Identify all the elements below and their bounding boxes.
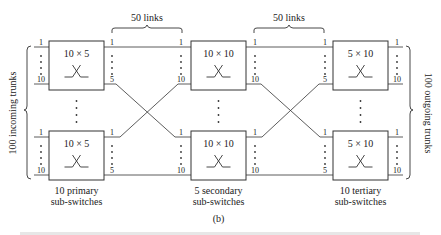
switch-size-label: 5 × 10 (348, 48, 374, 59)
svg-text:10: 10 (177, 75, 185, 84)
secondary-switch-bottom: 10 × 10 (191, 131, 246, 180)
subfigure-label: (b) (213, 213, 225, 225)
svg-text:1: 1 (323, 38, 327, 47)
tertiary-switch-bottom: 5 × 10 (333, 131, 388, 180)
svg-text:1: 1 (179, 38, 183, 47)
svg-text:10: 10 (37, 75, 45, 84)
svg-text:5: 5 (323, 166, 327, 175)
incoming-trunks-bracket (24, 46, 31, 179)
links-bracket-left (112, 25, 182, 33)
switch-size-label: 10 × 10 (203, 48, 234, 59)
svg-text:10: 10 (37, 166, 45, 175)
svg-text:1: 1 (39, 128, 43, 137)
secondary-caption-line2: sub-switches (193, 196, 245, 207)
links-label-left: 50 links (131, 12, 163, 23)
svg-text:1: 1 (323, 128, 327, 137)
outgoing-trunks-label: 100 outgoing trunks (423, 73, 434, 154)
svg-text:1: 1 (39, 38, 43, 47)
primary-caption-line2: sub-switches (51, 196, 103, 207)
tertiary-caption-line2: sub-switches (335, 196, 387, 207)
svg-text:5: 5 (110, 75, 114, 84)
svg-text:10: 10 (251, 75, 259, 84)
cutoff-caption-fragment (20, 232, 420, 235)
tertiary-caption-line1: 10 tertiary (340, 185, 381, 196)
three-stage-switch-diagram: 100 incoming trunks 100 outgoing trunks … (0, 0, 441, 235)
svg-text:10: 10 (393, 75, 401, 84)
switch-size-label: 5 × 10 (348, 138, 374, 149)
incoming-trunks-label: 100 incoming trunks (7, 72, 18, 155)
primary-switch-bottom: 10 × 5 (49, 131, 104, 180)
secondary-caption-line1: 5 secondary (194, 185, 242, 196)
secondary-switch-top: 10 × 10 (191, 41, 246, 90)
links-bracket-right (254, 25, 324, 33)
svg-text:10: 10 (393, 166, 401, 175)
svg-text:1: 1 (253, 128, 257, 137)
svg-text:10: 10 (177, 166, 185, 175)
svg-text:1: 1 (395, 38, 399, 47)
switch-size-label: 10 × 5 (64, 138, 90, 149)
svg-text:1: 1 (110, 38, 114, 47)
svg-text:1: 1 (110, 128, 114, 137)
links-label-right: 50 links (273, 12, 305, 23)
svg-text:1: 1 (395, 128, 399, 137)
switch-size-label: 10 × 10 (203, 138, 234, 149)
tertiary-switch-top: 5 × 10 (333, 41, 388, 90)
svg-text:5: 5 (110, 166, 114, 175)
primary-caption-line1: 10 primary (54, 185, 98, 196)
svg-text:10: 10 (251, 166, 259, 175)
svg-text:1: 1 (253, 38, 257, 47)
outgoing-trunks-bracket (406, 46, 413, 179)
switch-size-label: 10 × 5 (64, 48, 90, 59)
svg-text:5: 5 (323, 75, 327, 84)
svg-text:1: 1 (179, 128, 183, 137)
primary-switch-top: 10 × 5 (49, 41, 104, 90)
